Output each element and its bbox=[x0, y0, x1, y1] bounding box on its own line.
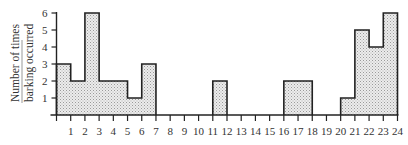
x-tick-label: 19 bbox=[321, 125, 333, 137]
y-tick-label: 2 bbox=[42, 75, 48, 87]
y-axis-ticks: 123456 bbox=[42, 7, 57, 104]
x-tick-label: 13 bbox=[236, 125, 248, 137]
x-tick-label: 23 bbox=[378, 125, 390, 137]
bar-fill bbox=[213, 81, 227, 115]
bar-fill bbox=[341, 13, 398, 115]
x-tick-label: 22 bbox=[364, 125, 375, 137]
x-tick-label: 11 bbox=[207, 125, 218, 137]
y-tick-label: 1 bbox=[42, 92, 48, 104]
y-tick-label: 4 bbox=[42, 41, 48, 53]
y-axis-label: Number of times barking occurred bbox=[9, 24, 36, 103]
x-tick-label: 17 bbox=[293, 125, 305, 137]
barking-histogram-chart: Number of times barking occurred 123456 … bbox=[0, 0, 408, 145]
x-tick-label: 8 bbox=[167, 125, 173, 137]
x-tick-label: 7 bbox=[153, 125, 159, 137]
x-tick-label: 12 bbox=[222, 125, 233, 137]
x-tick-label: 18 bbox=[307, 125, 319, 137]
x-tick-label: 4 bbox=[111, 125, 117, 137]
x-tick-label: 5 bbox=[125, 125, 131, 137]
x-tick-label: 16 bbox=[278, 125, 290, 137]
x-tick-label: 3 bbox=[96, 125, 102, 137]
y-tick-label: 3 bbox=[42, 58, 48, 70]
y-tick-label: 5 bbox=[42, 24, 48, 36]
x-tick-label: 10 bbox=[193, 125, 205, 137]
x-tick-label: 1 bbox=[68, 125, 74, 137]
x-tick-label: 20 bbox=[335, 125, 347, 137]
y-tick-label: 6 bbox=[42, 7, 48, 19]
x-tick-label: 6 bbox=[139, 125, 145, 137]
x-tick-label: 9 bbox=[182, 125, 188, 137]
x-axis-ticks: 123456789101112131415161718192021222324 bbox=[57, 115, 404, 137]
y-axis-label-line1: Number of times bbox=[9, 24, 21, 102]
x-tick-label: 24 bbox=[392, 125, 404, 137]
x-tick-label: 2 bbox=[82, 125, 88, 137]
histogram-bars bbox=[57, 13, 398, 115]
x-tick-label: 21 bbox=[349, 125, 360, 137]
y-axis-label-line2: barking occurred bbox=[23, 24, 36, 102]
x-tick-label: 14 bbox=[250, 125, 262, 137]
x-tick-label: 15 bbox=[264, 125, 276, 137]
bar-fill bbox=[284, 81, 312, 115]
